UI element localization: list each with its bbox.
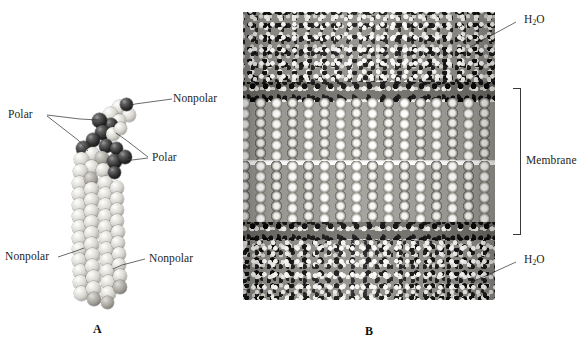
label-nonpolar-top: Nonpolar bbox=[173, 92, 217, 104]
panel-b-caption: B bbox=[365, 324, 373, 339]
bilayer-slab bbox=[243, 12, 495, 300]
panel-b bbox=[243, 12, 495, 300]
label-polar-right: Polar bbox=[152, 151, 177, 163]
water-layer-top bbox=[243, 12, 495, 88]
label-nonpolar-bottom-right: Nonpolar bbox=[149, 252, 193, 264]
label-water-top-o: O bbox=[536, 13, 544, 25]
panel-a-caption: A bbox=[93, 322, 102, 337]
label-polar-left: Polar bbox=[8, 108, 33, 120]
label-membrane: Membrane bbox=[526, 154, 577, 166]
membrane-bracket bbox=[513, 88, 521, 235]
tail-region-upper bbox=[243, 102, 495, 164]
water-layer-bottom bbox=[243, 240, 495, 300]
label-nonpolar-bottom-left: Nonpolar bbox=[5, 250, 49, 262]
tail-region-lower bbox=[243, 165, 495, 227]
figure-canvas: Nonpolar Polar Polar Nonpolar Nonpolar A bbox=[0, 0, 578, 348]
label-water-bottom: H2O bbox=[524, 253, 545, 267]
label-water-bottom-o: O bbox=[536, 253, 544, 265]
label-water-top: H2O bbox=[524, 13, 545, 27]
panel-a: Nonpolar Polar Polar Nonpolar Nonpolar A bbox=[0, 0, 230, 348]
